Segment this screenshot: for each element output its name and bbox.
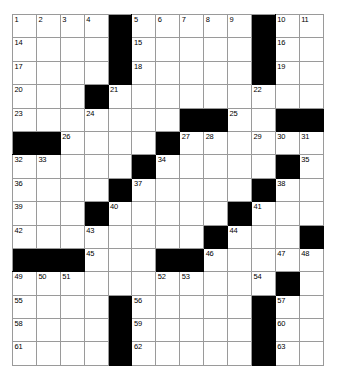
crossword-cell[interactable] xyxy=(299,178,323,201)
crossword-cell[interactable] xyxy=(132,248,156,271)
crossword-cell[interactable] xyxy=(36,202,60,225)
crossword-cell[interactable] xyxy=(299,295,323,318)
crossword-cell[interactable]: 26 xyxy=(60,131,84,154)
crossword-cell[interactable] xyxy=(228,342,252,365)
crossword-cell[interactable] xyxy=(84,295,108,318)
crossword-cell[interactable]: 5 xyxy=(132,15,156,38)
crossword-cell[interactable] xyxy=(60,295,84,318)
crossword-cell[interactable]: 8 xyxy=(204,15,228,38)
crossword-cell[interactable]: 19 xyxy=(275,61,299,84)
crossword-cell[interactable] xyxy=(60,202,84,225)
crossword-cell[interactable] xyxy=(251,225,275,248)
crossword-cell[interactable] xyxy=(180,319,204,342)
crossword-cell[interactable] xyxy=(60,38,84,61)
crossword-cell[interactable]: 18 xyxy=(132,61,156,84)
crossword-cell[interactable]: 28 xyxy=(204,131,228,154)
crossword-cell[interactable] xyxy=(299,61,323,84)
crossword-cell[interactable] xyxy=(204,155,228,178)
crossword-cell[interactable] xyxy=(275,85,299,108)
crossword-cell[interactable] xyxy=(180,61,204,84)
crossword-cell[interactable]: 9 xyxy=(228,15,252,38)
crossword-cell[interactable] xyxy=(156,38,180,61)
crossword-cell[interactable] xyxy=(299,38,323,61)
crossword-cell[interactable] xyxy=(36,225,60,248)
crossword-cell[interactable] xyxy=(156,342,180,365)
crossword-cell[interactable] xyxy=(132,108,156,131)
crossword-cell[interactable]: 7 xyxy=(180,15,204,38)
crossword-cell[interactable]: 45 xyxy=(84,248,108,271)
crossword-cell[interactable] xyxy=(180,85,204,108)
crossword-cell[interactable] xyxy=(180,295,204,318)
crossword-cell[interactable]: 14 xyxy=(13,38,37,61)
crossword-grid[interactable]: 1234567891011141516171819202122232425262… xyxy=(12,14,324,366)
crossword-cell[interactable]: 42 xyxy=(13,225,37,248)
crossword-cell[interactable]: 29 xyxy=(251,131,275,154)
crossword-cell[interactable]: 49 xyxy=(13,272,37,295)
crossword-cell[interactable] xyxy=(156,295,180,318)
crossword-cell[interactable] xyxy=(251,155,275,178)
crossword-cell[interactable] xyxy=(180,202,204,225)
crossword-cell[interactable] xyxy=(60,85,84,108)
crossword-cell[interactable]: 63 xyxy=(275,342,299,365)
crossword-cell[interactable] xyxy=(228,178,252,201)
crossword-cell[interactable] xyxy=(60,225,84,248)
crossword-cell[interactable]: 34 xyxy=(156,155,180,178)
crossword-cell[interactable] xyxy=(251,108,275,131)
crossword-cell[interactable] xyxy=(204,295,228,318)
crossword-cell[interactable] xyxy=(204,61,228,84)
crossword-cell[interactable] xyxy=(84,319,108,342)
crossword-cell[interactable] xyxy=(36,319,60,342)
crossword-cell[interactable] xyxy=(228,248,252,271)
crossword-cell[interactable]: 58 xyxy=(13,319,37,342)
crossword-cell[interactable] xyxy=(108,225,132,248)
crossword-cell[interactable]: 55 xyxy=(13,295,37,318)
crossword-cell[interactable] xyxy=(180,342,204,365)
crossword-cell[interactable] xyxy=(84,38,108,61)
crossword-cell[interactable] xyxy=(36,85,60,108)
crossword-cell[interactable] xyxy=(84,61,108,84)
crossword-cell[interactable] xyxy=(132,85,156,108)
crossword-cell[interactable] xyxy=(60,319,84,342)
crossword-cell[interactable] xyxy=(156,225,180,248)
crossword-cell[interactable]: 47 xyxy=(275,248,299,271)
crossword-cell[interactable] xyxy=(108,131,132,154)
crossword-cell[interactable] xyxy=(299,272,323,295)
crossword-cell[interactable] xyxy=(84,131,108,154)
crossword-cell[interactable] xyxy=(299,85,323,108)
crossword-cell[interactable]: 23 xyxy=(13,108,37,131)
crossword-cell[interactable] xyxy=(204,85,228,108)
crossword-cell[interactable] xyxy=(132,272,156,295)
crossword-cell[interactable] xyxy=(36,38,60,61)
crossword-cell[interactable]: 11 xyxy=(299,15,323,38)
crossword-cell[interactable] xyxy=(228,85,252,108)
crossword-cell[interactable] xyxy=(84,272,108,295)
crossword-cell[interactable] xyxy=(60,155,84,178)
crossword-cell[interactable] xyxy=(228,155,252,178)
crossword-cell[interactable]: 46 xyxy=(204,248,228,271)
crossword-cell[interactable] xyxy=(108,272,132,295)
crossword-cell[interactable] xyxy=(275,225,299,248)
crossword-cell[interactable]: 22 xyxy=(251,85,275,108)
crossword-cell[interactable] xyxy=(299,319,323,342)
crossword-cell[interactable]: 4 xyxy=(84,15,108,38)
crossword-cell[interactable]: 27 xyxy=(180,131,204,154)
crossword-cell[interactable]: 57 xyxy=(275,295,299,318)
crossword-cell[interactable]: 52 xyxy=(156,272,180,295)
crossword-cell[interactable] xyxy=(204,319,228,342)
crossword-cell[interactable] xyxy=(180,178,204,201)
crossword-cell[interactable]: 10 xyxy=(275,15,299,38)
crossword-cell[interactable] xyxy=(156,202,180,225)
crossword-cell[interactable]: 54 xyxy=(251,272,275,295)
crossword-cell[interactable]: 1 xyxy=(13,15,37,38)
crossword-cell[interactable]: 56 xyxy=(132,295,156,318)
crossword-cell[interactable] xyxy=(251,248,275,271)
crossword-cell[interactable] xyxy=(204,272,228,295)
crossword-cell[interactable]: 21 xyxy=(108,85,132,108)
crossword-cell[interactable]: 38 xyxy=(275,178,299,201)
crossword-cell[interactable]: 37 xyxy=(132,178,156,201)
crossword-cell[interactable] xyxy=(228,272,252,295)
crossword-cell[interactable] xyxy=(228,319,252,342)
crossword-cell[interactable] xyxy=(84,178,108,201)
crossword-cell[interactable] xyxy=(84,155,108,178)
crossword-cell[interactable] xyxy=(204,178,228,201)
